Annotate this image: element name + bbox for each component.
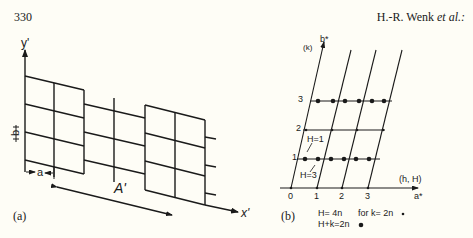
legend-small-dot-icon [402, 213, 405, 216]
figure-panel-b [0, 0, 473, 238]
k-tick-2: 2 [296, 123, 301, 133]
a-star-label: a* [414, 191, 423, 201]
h-tick-0: 0 [288, 191, 293, 201]
annotation-h3: H=3 [300, 170, 317, 180]
k-tick-1: 1 [292, 152, 297, 162]
annotation-leader-h1 [307, 143, 312, 152]
b-star-label: b* [320, 34, 329, 44]
annotation-h1: H=1 [307, 134, 324, 144]
h-tick-3: 3 [365, 191, 370, 201]
legend-entry-1-condition: for k= 2n [358, 208, 393, 218]
legend-entry-1: H= 4n [318, 208, 342, 218]
panel-b-label: (b) [281, 209, 295, 224]
k-tick-3: 3 [298, 94, 303, 104]
h-axis-sublabel: (h, H) [399, 174, 422, 184]
b-star-sublabel: (k) [303, 43, 312, 52]
b-star-axis-arrow [291, 42, 324, 188]
legend-large-dot-icon [359, 223, 364, 228]
legend-entry-2: H+k=2n [318, 219, 350, 229]
reciprocal-lattice [280, 42, 418, 188]
h-tick-1: 1 [314, 191, 319, 201]
h-tick-2: 2 [339, 191, 344, 201]
